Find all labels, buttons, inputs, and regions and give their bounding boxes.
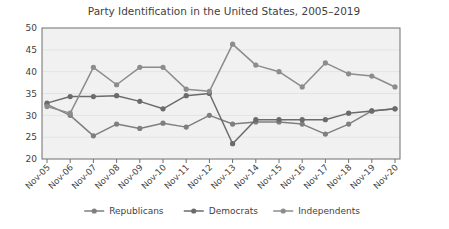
data-point <box>346 121 351 126</box>
x-axis-tick-label: Nov-12 <box>186 162 215 191</box>
legend-label: Republicans <box>109 206 164 216</box>
data-point <box>91 65 96 70</box>
x-axis-labels: Nov-05Nov-06Nov-07Nov-08Nov-09Nov-10Nov-… <box>23 162 400 191</box>
x-axis-tick-label: Nov-17 <box>302 162 331 191</box>
data-point <box>230 141 235 146</box>
data-point <box>392 106 397 111</box>
data-point <box>230 42 235 47</box>
x-axis-tick-label: Nov-09 <box>116 162 145 191</box>
data-point <box>253 117 258 122</box>
data-point <box>137 126 142 131</box>
legend-swatch-marker <box>92 208 97 213</box>
y-axis-tick-label: 20 <box>26 154 38 164</box>
data-point <box>91 133 96 138</box>
x-axis-tick-label: Nov-08 <box>93 162 122 191</box>
data-point <box>114 121 119 126</box>
legend-label: Independents <box>298 206 360 216</box>
y-axis-tick-label: 50 <box>26 23 38 33</box>
y-axis-tick-label: 25 <box>26 132 37 142</box>
data-point <box>323 132 328 137</box>
y-axis-tick-label: 45 <box>26 45 37 55</box>
data-point <box>114 93 119 98</box>
data-point <box>369 73 374 78</box>
data-point <box>276 69 281 74</box>
x-axis-tick-label: Nov-07 <box>70 162 99 191</box>
x-axis-tick-label: Nov-15 <box>255 162 284 191</box>
data-point <box>300 117 305 122</box>
x-axis-tick-label: Nov-18 <box>325 162 354 191</box>
data-point <box>137 99 142 104</box>
data-point <box>207 113 212 118</box>
x-axis-tick-label: Nov-16 <box>278 162 307 191</box>
legend-swatch-marker <box>191 208 196 213</box>
data-point <box>230 121 235 126</box>
chart-title: Party Identification in the United State… <box>88 5 360 17</box>
legend-item-republicans[interactable]: Republicans <box>84 206 164 216</box>
data-point <box>300 84 305 89</box>
data-point <box>160 121 165 126</box>
x-axis-tick-label: Nov-14 <box>232 162 261 191</box>
data-point <box>276 117 281 122</box>
data-point <box>68 111 73 116</box>
x-axis-tick-label: Nov-10 <box>139 162 168 191</box>
data-point <box>323 117 328 122</box>
data-point <box>137 65 142 70</box>
chart-container: Party Identification in the United State… <box>0 0 449 229</box>
legend-item-independents[interactable]: Independents <box>273 206 360 216</box>
data-point <box>346 71 351 76</box>
x-axis-tick-label: Nov-11 <box>162 162 191 191</box>
data-point <box>207 89 212 94</box>
data-point <box>369 108 374 113</box>
data-point <box>184 87 189 92</box>
data-point <box>184 125 189 130</box>
data-point <box>346 111 351 116</box>
x-axis-tickmarks <box>47 159 395 163</box>
y-axis-tick-label: 30 <box>26 111 38 121</box>
data-point <box>184 93 189 98</box>
legend-swatch-marker <box>281 208 286 213</box>
legend-label: Democrats <box>209 206 258 216</box>
data-point <box>392 84 397 89</box>
x-axis-tick-label: Nov-20 <box>371 162 400 191</box>
y-axis-tick-label: 35 <box>26 89 37 99</box>
line-chart: Party Identification in the United State… <box>0 0 449 229</box>
data-point <box>253 63 258 68</box>
data-point <box>114 82 119 87</box>
data-point <box>44 104 49 109</box>
data-point <box>91 94 96 99</box>
y-axis-tick-label: 40 <box>26 67 38 77</box>
x-axis-tick-label: Nov-19 <box>348 162 377 191</box>
x-axis-tick-label: Nov-13 <box>209 162 238 191</box>
data-point <box>160 65 165 70</box>
x-axis-tick-label: Nov-06 <box>46 162 75 191</box>
data-point <box>160 106 165 111</box>
data-point <box>68 94 73 99</box>
chart-legend: RepublicansDemocratsIndependents <box>84 206 360 216</box>
x-axis-tick-label: Nov-05 <box>23 162 52 191</box>
legend-item-democrats[interactable]: Democrats <box>184 206 258 216</box>
data-point <box>323 60 328 65</box>
y-axis-labels: 20253035404550 <box>26 23 38 164</box>
